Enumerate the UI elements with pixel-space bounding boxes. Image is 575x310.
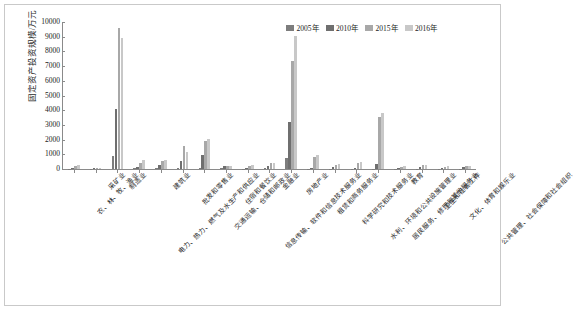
bar-group — [128, 22, 150, 169]
bar — [229, 166, 232, 169]
y-tick-label: 8000 — [22, 46, 60, 56]
bar — [381, 113, 384, 169]
bar-group — [389, 22, 411, 169]
bar-group — [172, 22, 194, 169]
bar — [273, 163, 276, 169]
x-axis-labels: 农、林、牧、渔业采矿业制造业电力、热力、燃气及水生产和供应业建筑业批发和零售业交… — [62, 171, 476, 301]
bar — [207, 139, 210, 169]
bar — [164, 160, 167, 169]
y-tick-label: 10000 — [22, 17, 60, 27]
bar-group — [454, 22, 476, 169]
bar-group — [432, 22, 454, 169]
bar-group — [324, 22, 346, 169]
x-axis-label: 房地产业 — [305, 171, 330, 196]
bar-group — [150, 22, 172, 169]
bar-group — [215, 22, 237, 169]
y-tick-label: 1000 — [22, 149, 60, 159]
bar — [403, 166, 406, 169]
bar — [186, 152, 189, 169]
bar — [142, 160, 145, 169]
bar-groups — [63, 22, 476, 169]
bar-group — [106, 22, 128, 169]
bar-group — [411, 22, 433, 169]
bar — [338, 164, 341, 169]
bar — [447, 166, 450, 169]
y-tick-label: 7000 — [22, 61, 60, 71]
y-tick-label: 2000 — [22, 135, 60, 145]
bar — [425, 165, 428, 169]
bar — [294, 36, 297, 169]
bar-group — [259, 22, 281, 169]
bar — [121, 38, 124, 169]
x-axis-label: 建筑业 — [172, 171, 193, 192]
plot-area: 1000090008000700060005000400030002000100… — [62, 22, 476, 169]
y-tick-label: 9000 — [22, 32, 60, 42]
bar — [468, 166, 471, 169]
bar-group — [237, 22, 259, 169]
bar — [316, 155, 319, 169]
y-tick-label: 3000 — [22, 120, 60, 130]
bar-group — [193, 22, 215, 169]
bar — [99, 168, 102, 169]
bar-group — [302, 22, 324, 169]
bar — [360, 162, 363, 169]
bar-group — [367, 22, 389, 169]
y-tick-label: 4000 — [22, 105, 60, 115]
y-tick-label: 0 — [22, 164, 60, 174]
bar-group — [85, 22, 107, 169]
bar-group — [63, 22, 85, 169]
bar — [251, 165, 254, 169]
y-tick-label: 5000 — [22, 91, 60, 101]
bar — [77, 165, 80, 169]
bar-group — [280, 22, 302, 169]
y-tick-label: 6000 — [22, 76, 60, 86]
bar-group — [346, 22, 368, 169]
